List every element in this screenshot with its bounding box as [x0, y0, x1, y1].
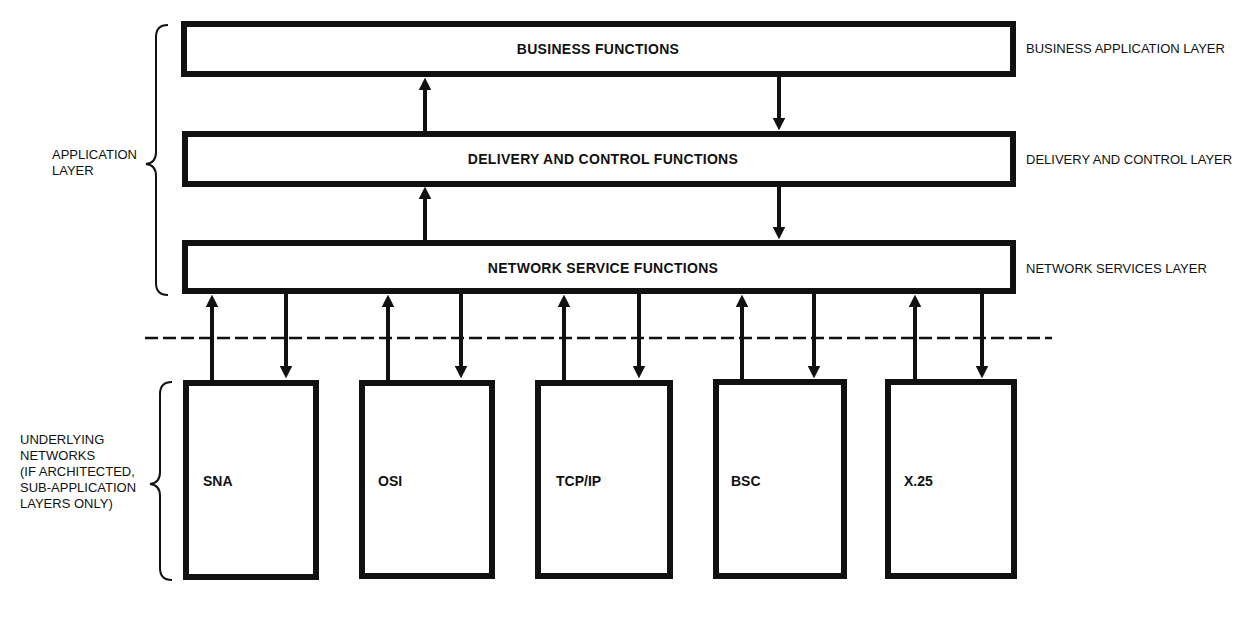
delivery-control-layer-label: DELIVERY AND CONTROL LAYER	[1026, 152, 1232, 167]
business-application-layer-label: BUSINESS APPLICATION LAYER	[1026, 41, 1225, 56]
network-label: X.25	[904, 473, 933, 489]
underlying-networks-brace	[150, 382, 172, 580]
business-functions-box: BUSINESS FUNCTIONS	[184, 24, 1013, 74]
underlying-networks-label: UNDERLYING NETWORKS (IF ARCHITECTED, SUB…	[20, 432, 140, 511]
application-layer-label: APPLICATIONLAYER	[52, 147, 137, 178]
business-functions-label: BUSINESS FUNCTIONS	[517, 41, 680, 57]
network-services-layer-label: NETWORK SERVICES LAYER	[1026, 261, 1207, 276]
network-label: OSI	[378, 473, 402, 489]
network-label: BSC	[731, 473, 761, 489]
network-box-x25: X.25	[888, 382, 1014, 576]
network-box-bsc: BSC	[716, 382, 844, 576]
application-layer-brace	[146, 25, 168, 295]
delivery-control-functions-box: DELIVERY AND CONTROL FUNCTIONS	[185, 134, 1013, 184]
network-service-functions-box: NETWORK SERVICE FUNCTIONS	[185, 243, 1013, 291]
delivery-control-functions-label: DELIVERY AND CONTROL FUNCTIONS	[468, 151, 738, 167]
layered-architecture-diagram: APPLICATIONLAYER BUSINESS FUNCTIONS BUSI…	[0, 0, 1254, 617]
network-label: SNA	[203, 473, 233, 489]
network-box-osi: OSI	[362, 383, 492, 576]
network-box-tcpip: TCP/IP	[538, 383, 670, 576]
network-service-functions-label: NETWORK SERVICE FUNCTIONS	[488, 260, 718, 276]
network-label: TCP/IP	[556, 473, 601, 489]
network-box-sna: SNA	[186, 383, 316, 577]
